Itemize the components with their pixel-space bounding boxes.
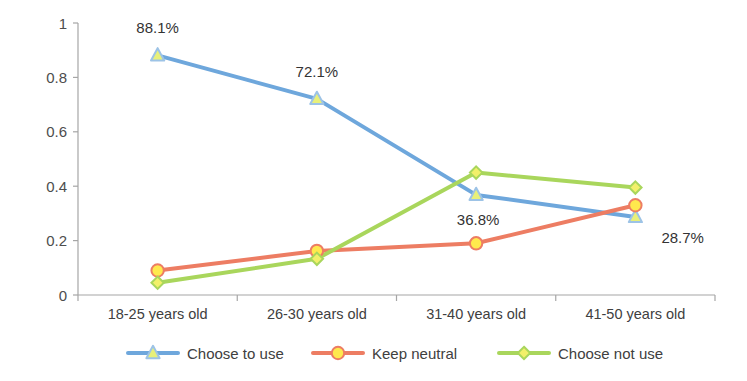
x-axis-ticks [78,295,715,301]
data-point-marker-choose-not-use [629,181,641,193]
y-axis-tick-label: 0.8 [46,69,67,86]
y-axis-ticks [73,23,78,295]
y-axis-tick-label: 0.6 [46,123,67,140]
legend-marker-keep-neutral [332,347,344,359]
data-point-label: 72.1% [296,63,339,80]
y-axis-tick-label: 0 [59,287,67,304]
y-axis-tick-label: 0.2 [46,232,67,249]
data-point-marker-choose-to-use [151,48,164,60]
x-axis-category-label: 31-40 years old [426,306,526,322]
series-line-choose-to-use [158,55,636,217]
x-axis-category-label: 26-30 years old [267,306,367,322]
chart-legend: Choose to useKeep neutralChoose not use [128,345,663,362]
legend-label-choose-to-use[interactable]: Choose to use [187,345,284,362]
data-point-marker-choose-not-use [151,277,163,289]
series-markers [151,48,642,289]
x-axis-category-label: 18-25 years old [108,306,208,322]
y-axis-tick-labels: 00.20.40.60.81 [46,15,67,304]
legend-marker-choose-not-use [518,347,530,359]
data-point-labels: 88.1%72.1%36.8%28.7% [136,19,704,246]
series-line-choose-not-use [158,173,636,283]
y-axis-tick-label: 1 [59,15,67,32]
data-point-marker-keep-neutral [629,199,641,211]
series-lines [158,55,636,282]
line-chart: 00.20.40.60.81 18-25 years old26-30 year… [0,0,747,381]
y-axis-tick-label: 0.4 [46,178,67,195]
legend-label-keep-neutral[interactable]: Keep neutral [372,345,457,362]
x-axis-category-label: 41-50 years old [585,306,685,322]
data-point-marker-keep-neutral [470,237,482,249]
data-point-label: 88.1% [136,19,179,36]
data-point-marker-keep-neutral [151,264,163,276]
data-point-label: 36.8% [457,211,500,228]
x-axis-tick-labels: 18-25 years old26-30 years old31-40 year… [108,306,686,322]
chart-canvas: 00.20.40.60.81 18-25 years old26-30 year… [0,0,747,381]
data-point-label: 28.7% [661,229,704,246]
legend-label-choose-not-use[interactable]: Choose not use [558,345,663,362]
